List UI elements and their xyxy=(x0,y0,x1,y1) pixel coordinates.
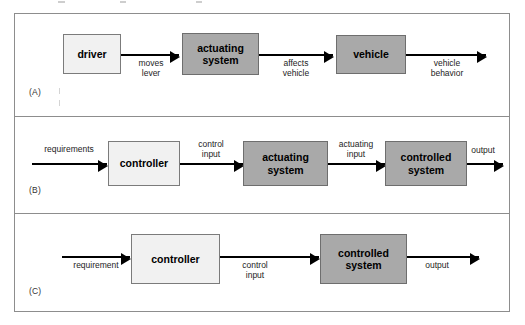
edge-label-requirements: requirements xyxy=(29,144,109,154)
block-diagram-figure: (A) driver moves lever actuating system … xyxy=(0,0,525,325)
scan-artifact xyxy=(59,88,60,94)
edge-label-output: output xyxy=(465,145,501,155)
panel-a-tag: (A) xyxy=(29,87,41,97)
arrow-vehicle-to-behavior xyxy=(406,54,486,56)
arrow-requirement-to-controller xyxy=(62,256,130,258)
edge-label-control-input: control input xyxy=(226,260,284,281)
arrow-controlled-to-output xyxy=(407,256,479,258)
block-driver-label: driver xyxy=(77,48,106,60)
panel-c-tag: (C) xyxy=(29,286,41,296)
edge-label-line-2: behavior xyxy=(415,68,479,78)
edge-label-line-2: input xyxy=(185,149,237,159)
edge-label-requirement: requirement xyxy=(56,260,136,270)
edge-label-line-1: output xyxy=(415,260,459,270)
arrow-controller-to-controlled xyxy=(220,256,319,258)
block-actuating-system: actuating system xyxy=(243,141,328,186)
edge-label-line-1: actuating xyxy=(328,139,384,149)
edge-label-vehicle-behavior: vehicle behavior xyxy=(415,58,479,79)
block-controlled-system: controlled system xyxy=(385,141,467,186)
edge-label-line-2: lever xyxy=(125,68,177,78)
block-controlled-system: controlled system xyxy=(320,234,407,284)
arrow-actuating-to-vehicle xyxy=(259,54,333,56)
edge-label-moves-lever: moves lever xyxy=(125,58,177,79)
edge-label-line-1: vehicle xyxy=(415,58,479,68)
block-vehicle: vehicle xyxy=(336,35,406,74)
scan-artifact xyxy=(58,1,65,3)
block-controller: controller xyxy=(108,141,180,186)
edge-label-line-2: input xyxy=(328,149,384,159)
edge-label-line-1: requirements xyxy=(29,144,109,154)
edge-label-line-1: requirement xyxy=(56,260,136,270)
panel-c: (C) requirement controller control input… xyxy=(14,213,510,312)
block-controlled-system-label: controlled system xyxy=(338,247,389,271)
panel-b-tag: (B) xyxy=(29,185,41,195)
block-controller: controller xyxy=(131,234,220,284)
block-driver: driver xyxy=(63,34,121,74)
edge-label-line-1: affects xyxy=(265,58,327,68)
arrow-controlled-to-output xyxy=(467,163,503,165)
arrow-actuating-to-controlled xyxy=(328,163,385,165)
edge-label-actuating-input: actuating input xyxy=(328,139,384,160)
edge-label-output: output xyxy=(415,260,459,270)
edge-label-line-1: control xyxy=(185,139,237,149)
edge-label-line-1: output xyxy=(465,145,501,155)
scan-artifact xyxy=(120,1,126,3)
block-actuating-system-label: actuating system xyxy=(262,151,309,175)
edge-label-line-2: vehicle xyxy=(265,68,327,78)
panel-a: (A) driver moves lever actuating system … xyxy=(14,13,510,117)
block-vehicle-label: vehicle xyxy=(353,48,389,60)
edge-label-control-input: control input xyxy=(185,139,237,160)
arrow-driver-to-actuating xyxy=(121,54,179,56)
block-controlled-system-label: controlled system xyxy=(401,151,452,175)
arrow-requirements-to-controller xyxy=(32,163,107,165)
block-controller-label: controller xyxy=(151,253,199,265)
edge-label-line-1: control xyxy=(226,260,284,270)
block-controller-label: controller xyxy=(120,157,168,169)
scan-artifact xyxy=(59,100,60,106)
arrow-controller-to-actuating xyxy=(180,163,243,165)
edge-label-line-2: input xyxy=(226,270,284,280)
scan-artifact xyxy=(196,1,202,3)
block-actuating-system-label: actuating system xyxy=(197,42,244,66)
panel-b: (B) requirements controller control inpu… xyxy=(14,116,510,214)
edge-label-line-1: moves xyxy=(125,58,177,68)
edge-label-affects-vehicle: affects vehicle xyxy=(265,58,327,79)
block-actuating-system: actuating system xyxy=(182,33,259,75)
